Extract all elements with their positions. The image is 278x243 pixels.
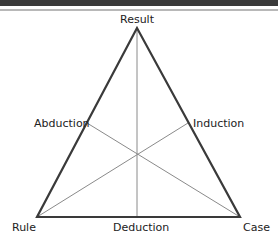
label-induction: Induction: [193, 118, 244, 130]
median-rule-induction: [37, 123, 188, 217]
label-deduction: Deduction: [113, 222, 169, 234]
label-rule: Rule: [12, 222, 36, 234]
label-abduction: Abduction: [34, 118, 90, 130]
label-case: Case: [243, 222, 270, 234]
label-result: Result: [120, 14, 154, 26]
median-case-abduction: [87, 123, 240, 217]
